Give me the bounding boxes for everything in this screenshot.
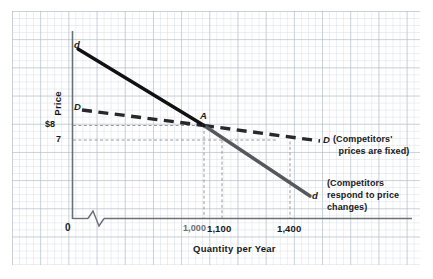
x-tick-label-1000: 1,000 [183, 223, 206, 234]
annotation-fixed-line2: prices are fixed) [336, 146, 409, 157]
curve-D-left-label: D [74, 101, 81, 112]
guide-lines [73, 126, 290, 219]
curve-D-right-label: D [323, 134, 330, 145]
annotation-respond-line1: (Competitors [327, 178, 384, 189]
curve-d-upper-segment [78, 49, 204, 126]
curve-d-bottom-label: d [312, 190, 318, 201]
x-tick-label-1400: 1,400 [277, 223, 301, 234]
y-tick-label-7: 7 [56, 134, 61, 145]
annotation-fixed-line1: (Competitors' [333, 134, 392, 145]
point-A-marker [202, 124, 205, 127]
annotation-respond-line3: changes) [327, 202, 367, 213]
x-tick-label-1100: 1,100 [207, 223, 231, 234]
kinked-demand-curve-figure: Price $8 7 0 1,000 1,100 1,400 Quantity … [0, 0, 433, 279]
x-axis-break-zigzag [88, 211, 104, 226]
x-axis-title: Quantity per Year [193, 243, 276, 254]
point-A-label: A [200, 110, 207, 121]
origin-label: 0 [65, 222, 71, 234]
curve-d-top-label: d [74, 39, 80, 50]
y-tick-label-8: $8 [45, 119, 55, 130]
annotation-respond-line2: respond to price [327, 190, 399, 201]
